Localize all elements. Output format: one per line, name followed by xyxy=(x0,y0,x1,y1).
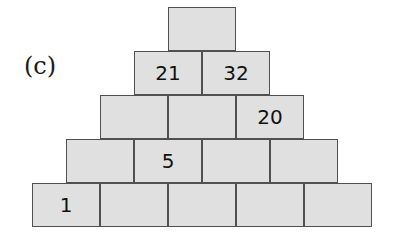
pyramid-block-r4-c1 xyxy=(66,139,134,183)
pyramid-block-r3-c2 xyxy=(168,95,236,139)
pyramid-block-r4-c2: 5 xyxy=(134,139,202,183)
pyramid-block-r5-c4 xyxy=(236,183,304,227)
number-pyramid: 21322051 xyxy=(0,0,398,236)
pyramid-block-r5-c1: 1 xyxy=(32,183,100,227)
pyramid-block-r3-c1 xyxy=(100,95,168,139)
pyramid-block-r5-c5 xyxy=(304,183,372,227)
pyramid-block-r2-c2: 32 xyxy=(202,51,270,95)
pyramid-block-r5-c2 xyxy=(100,183,168,227)
pyramid-block-r2-c1: 21 xyxy=(134,51,202,95)
pyramid-block-r4-c4 xyxy=(270,139,338,183)
pyramid-block-r5-c3 xyxy=(168,183,236,227)
pyramid-block-r3-c3: 20 xyxy=(236,95,304,139)
pyramid-block-r1-c1 xyxy=(168,7,236,51)
pyramid-block-r4-c3 xyxy=(202,139,270,183)
